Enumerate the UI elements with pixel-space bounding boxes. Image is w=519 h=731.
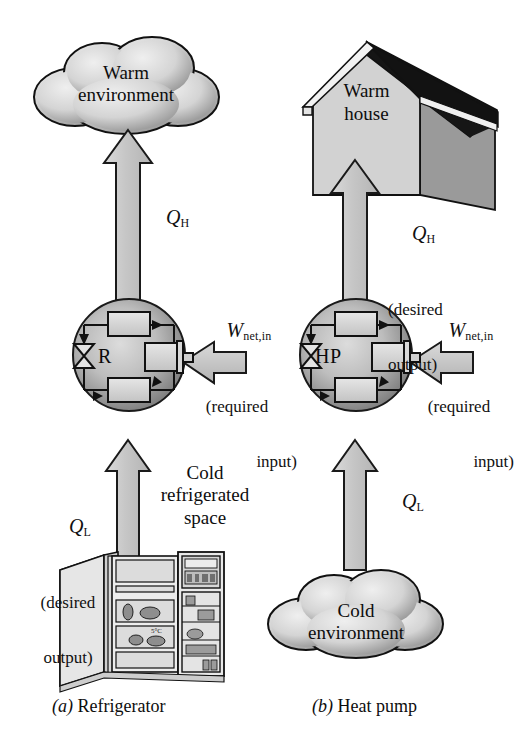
refrigerator-cycle-device — [73, 299, 193, 411]
ql-label-refrigerator: QL (desired output) — [22, 461, 114, 703]
ql-symbol: Q — [69, 515, 83, 537]
w-note-line1: (required — [404, 397, 514, 416]
w-note-line2: input) — [404, 452, 514, 471]
caption-text-a: Refrigerator — [78, 696, 166, 716]
ql-label-heatpump: QL — [386, 472, 424, 533]
w-symbol: W — [449, 319, 466, 341]
warm-environment-line1: Warm — [36, 62, 216, 84]
qh-subscript: H — [180, 216, 189, 230]
figure-canvas: 5°C — [0, 0, 519, 731]
ql-subscript: L — [83, 525, 91, 539]
svg-text:5°C: 5°C — [151, 627, 162, 635]
heatpump-device-label: HP — [315, 345, 342, 368]
caption-heatpump: (b) Heat pump — [312, 696, 417, 717]
caption-refrigerator: (a) Refrigerator — [52, 696, 165, 717]
arrow-qh-refrigerator — [104, 130, 152, 300]
cold-environment-line1: Cold — [276, 600, 436, 622]
w-subscript: net,in — [465, 329, 493, 343]
w-symbol: W — [227, 319, 244, 341]
ql-note-line1: (desired — [22, 593, 114, 612]
qh-subscript: H — [426, 232, 435, 246]
evaporator-box — [335, 378, 377, 402]
work-input-label-heatpump: Wnet,in (required input) — [404, 265, 514, 507]
condenser-box — [108, 312, 150, 336]
w-subscript: net,in — [243, 329, 271, 343]
cold-space-line3: space — [145, 507, 265, 529]
caption-letter-b: (b) — [312, 696, 333, 716]
warm-environment-label: Warm environment — [36, 62, 216, 107]
warm-environment-line2: environment — [36, 84, 216, 106]
qh-label-refrigerator: QH — [150, 188, 189, 249]
condenser-box — [335, 312, 377, 336]
refrigerator-device-label: R — [98, 345, 112, 368]
evaporator-box — [108, 378, 150, 402]
arrow-ql-heatpump — [333, 440, 377, 570]
cold-environment-line2: environment — [276, 622, 436, 644]
cold-space-line2: refrigerated — [145, 484, 265, 506]
qh-symbol: Q — [166, 206, 180, 228]
ql-subscript: L — [416, 500, 424, 514]
w-note-line1: (required — [177, 397, 297, 416]
ql-note-line2: output) — [22, 648, 114, 667]
cold-refrigerated-space-label: Cold refrigerated space — [145, 462, 265, 529]
caption-text-b: Heat pump — [338, 696, 417, 716]
caption-letter-a: (a) — [52, 696, 73, 716]
qh-symbol: Q — [412, 222, 426, 244]
warm-house-line1: Warm — [313, 80, 420, 103]
warm-house-line2: house — [313, 103, 420, 126]
ql-symbol: Q — [402, 490, 416, 512]
cold-space-line1: Cold — [145, 462, 265, 484]
cold-environment-label: Cold environment — [276, 600, 436, 645]
warm-house-label: Warm house — [313, 80, 420, 126]
